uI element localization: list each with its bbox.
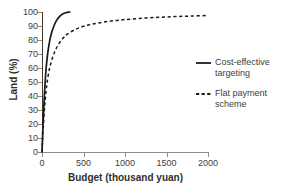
- legend-label: Cost-effective targeting: [215, 57, 285, 79]
- series-cost-effective-targeting: [42, 12, 70, 152]
- legend-item-flat-payment-scheme: Flat payment scheme: [196, 88, 285, 110]
- x-tick-label: 500: [64, 159, 104, 168]
- dashed-line-icon: [196, 88, 211, 99]
- y-tick-label: 100: [2, 8, 38, 17]
- legend: Cost-effective targeting Flat payment sc…: [196, 57, 285, 119]
- x-tick-mark: [42, 153, 43, 157]
- y-axis-title: Land (%): [8, 40, 19, 120]
- x-tick-mark: [167, 153, 168, 157]
- legend-label: Flat payment scheme: [215, 88, 285, 110]
- legend-item-cost-effective-targeting: Cost-effective targeting: [196, 57, 285, 79]
- x-tick-label: 2000: [188, 159, 228, 168]
- x-tick-mark: [125, 153, 126, 157]
- solid-line-icon: [196, 57, 211, 68]
- series-flat-payment-scheme: [42, 16, 208, 153]
- x-axis-title: Budget (thousand yuan): [42, 172, 209, 183]
- series-svg: [42, 12, 208, 152]
- y-tick-label: 0: [2, 148, 38, 157]
- x-tick-label: 1000: [105, 159, 145, 168]
- x-tick-label: 0: [22, 159, 62, 168]
- y-tick-label: 20: [2, 120, 38, 129]
- x-tick-mark: [84, 153, 85, 157]
- y-tick-label: 10: [2, 134, 38, 143]
- x-tick-label: 1500: [147, 159, 187, 168]
- y-tick-label: 90: [2, 22, 38, 31]
- x-tick-mark: [208, 153, 209, 157]
- chart-container: 100 90 80 70 60 50 40 30 20 10 0 0 500 1…: [0, 0, 285, 193]
- plot-area: [42, 12, 208, 152]
